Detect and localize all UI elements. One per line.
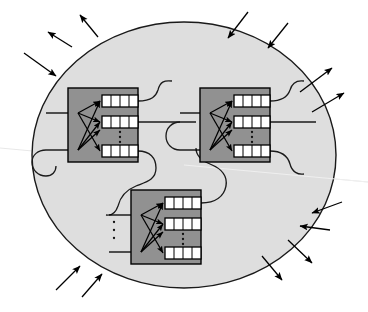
module-3-outer-ellipsis-dot-1 xyxy=(113,221,115,223)
module-3-ellipsis-dot-1 xyxy=(182,233,184,235)
module-3-outer-ellipsis-dot-2 xyxy=(113,229,115,231)
figure-root xyxy=(0,0,368,312)
module-1-ellipsis-dot-1 xyxy=(119,131,121,133)
module-1-ellipsis-dot-2 xyxy=(119,136,121,138)
module-2-ellipsis-dot-1 xyxy=(251,131,253,133)
module-3-ellipsis-dot-2 xyxy=(182,238,184,240)
module-2-ellipsis-dot-3 xyxy=(251,141,253,143)
module-3-outer-ellipsis-dot-3 xyxy=(113,237,115,239)
module-2-ellipsis-dot-2 xyxy=(251,136,253,138)
system-diagram-svg xyxy=(0,0,368,312)
module-1-ellipsis-dot-3 xyxy=(119,141,121,143)
module-3-ellipsis-dot-3 xyxy=(182,243,184,245)
